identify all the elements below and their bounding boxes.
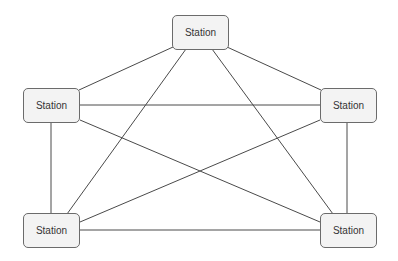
edge-top-bottom-right xyxy=(212,49,333,214)
station-node-top[interactable]: Station xyxy=(172,15,229,50)
station-label: Station xyxy=(333,100,364,111)
edge-top-bottom-left xyxy=(67,49,186,214)
edge-top-left xyxy=(79,47,173,90)
station-label: Station xyxy=(333,225,364,236)
station-node-left[interactable]: Station xyxy=(23,88,80,123)
station-node-right[interactable]: Station xyxy=(320,88,377,123)
station-node-bottom-left[interactable]: Station xyxy=(23,213,80,248)
station-label: Station xyxy=(36,100,67,111)
station-label: Station xyxy=(36,225,67,236)
station-node-bottom-right[interactable]: Station xyxy=(320,213,377,248)
edge-top-right xyxy=(227,47,321,90)
station-label: Station xyxy=(185,27,216,38)
